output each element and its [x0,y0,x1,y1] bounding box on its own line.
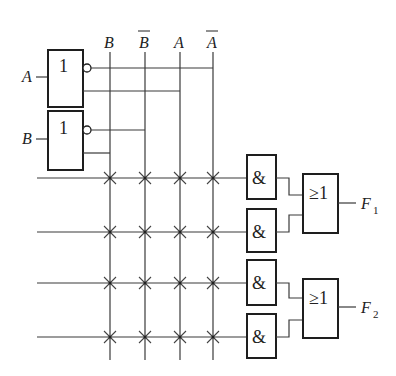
wire-and3-or2 [276,283,303,298]
output-label-f2: F [360,299,371,316]
column-label-b: B [104,34,114,51]
and-gate-3-symbol: & [252,273,266,293]
buffer-gate-a-symbol: 1 [59,56,68,76]
column-label-a-not: A [206,34,217,51]
pla-logic-diagram: B B A A A 1 B 1 [0,0,396,376]
inverter-bubble-a [83,64,91,72]
output-subscript-f1: 1 [373,204,379,216]
inverter-bubble-b [83,126,91,134]
and-gate-2-symbol: & [252,222,266,242]
connection-markers [104,172,219,343]
buffer-gate-b-symbol: 1 [59,118,68,138]
input-label-a: A [21,68,32,85]
column-label-a: A [173,34,184,51]
and-gate-1-symbol: & [252,168,266,188]
wire-and1-or1 [276,178,303,195]
wire-and4-or2 [276,320,303,337]
column-label-b-not: B [139,34,149,51]
wire-and2-or1 [276,215,303,232]
input-label-b: B [22,130,32,147]
output-subscript-f2: 2 [373,308,379,320]
or-gate-2-symbol: ≥1 [309,288,328,308]
output-label-f1: F [360,195,371,212]
or-gate-1-symbol: ≥1 [309,183,328,203]
and-gate-4-symbol: & [252,327,266,347]
